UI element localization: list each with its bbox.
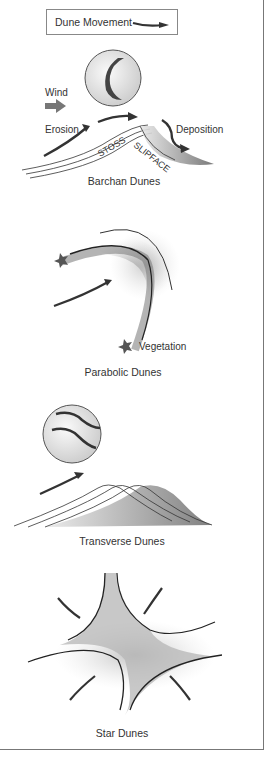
diagram-panel: Dune Movement <box>0 0 264 750</box>
wind-arrow-icon <box>45 99 66 113</box>
transverse-caption: Transverse Dunes <box>79 535 164 547</box>
deposition-label: Deposition <box>176 124 223 135</box>
parabolic-caption: Parabolic Dunes <box>84 366 161 378</box>
wind-label: Wind <box>45 87 68 98</box>
barchan-caption: Barchan Dunes <box>88 175 160 187</box>
transverse-dune-illustration <box>14 405 212 527</box>
erosion-label: Erosion <box>45 124 79 135</box>
star-caption: Star Dunes <box>96 727 149 739</box>
parabolic-dune-illustration <box>54 230 180 354</box>
barchan-dune-illustration <box>22 50 214 178</box>
vegetation-label: Vegetation <box>139 341 186 352</box>
star-dune-illustration <box>28 573 222 715</box>
